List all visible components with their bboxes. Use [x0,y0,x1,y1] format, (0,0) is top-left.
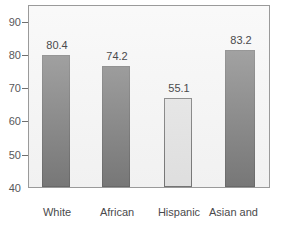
bar-white [42,55,70,187]
x-axis-label-white-line1: White [43,206,71,218]
bar-value-hispanic: 55.1 [153,83,205,94]
bar-value-asian-pacific-islander: 83.2 [215,35,267,46]
x-axis-label-asian-pacific-islander: Asian and Pacific Islander [186,193,281,230]
y-axis-label-50: 50 [0,150,21,161]
bar-hispanic [164,98,192,187]
bar-chart-figure: 90 80 70 60 50 40 80.4 74.2 55.1 83.2 Wh… [0,0,281,230]
plot-area [28,5,270,188]
bar-african-american [102,66,130,187]
bar-value-african-american: 74.2 [91,51,143,62]
bar-asian-pacific-islander [225,50,255,187]
y-axis-label-60: 60 [0,116,21,127]
y-axis-label-80: 80 [0,50,21,61]
x-axis-label-african-american-line1: African [100,206,134,218]
bar-value-white: 80.4 [31,40,83,51]
x-axis-label-asian-pacific-islander-line1: Asian and [209,206,258,218]
y-axis-label-90: 90 [0,17,21,28]
y-axis-label-70: 70 [0,83,21,94]
